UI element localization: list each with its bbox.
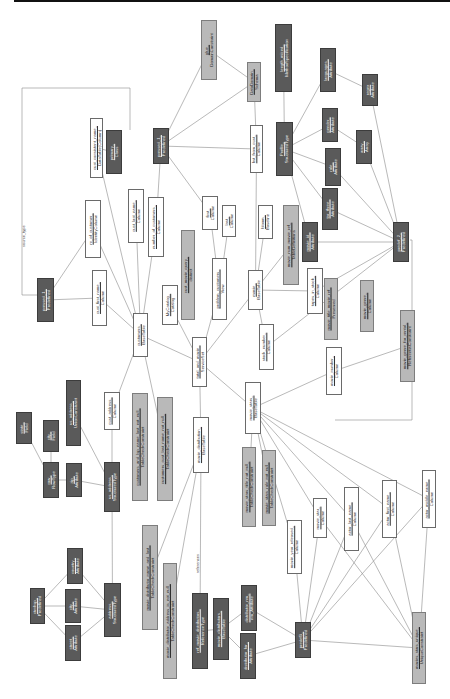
node-type: UnionConstraint xyxy=(74,398,79,428)
node-type: Field xyxy=(24,423,29,432)
diagram-node-primaryclass: primary_Class xyxy=(106,130,122,174)
diagram-node-mycatalog: MyCatalog_Catalog xyxy=(162,285,178,325)
node-type: Predefined xyxy=(46,290,51,310)
node-label: city_Attribute xyxy=(68,598,78,614)
node-type: BaseTable xyxy=(253,398,258,418)
node-label: languages_Attribute xyxy=(323,59,333,81)
diagram-node-street: street_Attribute xyxy=(65,625,81,661)
node-type: Predefined xyxy=(303,630,308,650)
edge xyxy=(161,82,254,146)
diagram-node-moviedatadomain: movie_genre_Column xyxy=(360,280,374,332)
diagram-node-moviedistrefs: movie_distributors_BaseTable xyxy=(213,598,229,660)
node-type: Attribute xyxy=(73,598,78,614)
diagram-node-statelevel: state_Field xyxy=(16,412,32,444)
node-name: movie_stars_title_not_null_ xyxy=(244,462,249,513)
node-type: Catalog xyxy=(170,298,175,312)
diagram-node-moviestarsunique: movies_stars_unique_UniqueConstraint xyxy=(412,612,426,684)
node-type: distinct xyxy=(188,268,193,281)
node-label: role_Attribute xyxy=(328,159,338,175)
diagram-node-moviedesc: movie_genre_for_rental_ReferentialConstr… xyxy=(400,310,415,382)
node-label: movie_num_movie_ref_TableDefinitions xyxy=(286,223,296,268)
diagram-node-last: last_Column xyxy=(222,205,236,237)
diagram-node-actorfirst: actor_first_name_Column xyxy=(382,480,397,538)
edge xyxy=(253,408,429,499)
node-label: number_of_customers_Column xyxy=(151,205,161,249)
node-type: Attribute xyxy=(310,234,315,250)
diagram-node-custlast: cust_last_name_Column xyxy=(128,189,144,243)
node-label: predef3_Predefined xyxy=(298,630,308,650)
node-label: state_Field xyxy=(19,422,29,433)
node-label: actor_middle_name_Column xyxy=(424,479,434,518)
diagram-node-datadom: DataDomain_Schema xyxy=(247,62,261,102)
node-label: cust_movie_query_distinct xyxy=(183,257,193,293)
node-type: Column xyxy=(267,340,272,354)
node-label: country_Attribute xyxy=(70,558,80,574)
node-name: actor_first_name_ xyxy=(385,492,390,526)
node-label: customers_cust_last_name_not_null_TableC… xyxy=(160,414,170,484)
node-name: movie_ xyxy=(251,283,256,297)
diagram-node-moviestar: movie_star_Column xyxy=(313,498,327,538)
node-label: first_Column xyxy=(205,206,215,220)
diagram-node-pressed1: pressed_1_Predefined xyxy=(153,128,169,164)
node-label: glue_DomainConstraint xyxy=(204,33,214,67)
node-type: TableCheckConstraint xyxy=(170,601,175,642)
edge xyxy=(141,335,200,362)
diagram-node-custconsent: cust_consistent_name_DataTable(Column) xyxy=(90,118,103,178)
node-name: length_mized_ xyxy=(279,44,284,71)
node-label: us_address_StructuredType xyxy=(107,473,117,501)
node-label: primary_Class xyxy=(109,144,119,160)
node-type: Class xyxy=(114,147,119,157)
edge-label: references xyxy=(195,554,200,573)
edge xyxy=(370,90,401,242)
diagram-node-predef3: predef3_Predefined xyxy=(295,622,311,658)
node-type: TableCheckConstraint xyxy=(249,467,254,508)
diagram-node-usaddrstruct: us_address_StructuredType xyxy=(104,462,120,512)
node-label: actor_first_name_Column xyxy=(385,492,395,526)
node-label: DataDomain_Schema xyxy=(249,69,259,95)
diagram-node-profile: Profile_StructuredType xyxy=(276,122,293,176)
node-type: StructuredType xyxy=(113,596,118,624)
node-type: ReferenceType xyxy=(200,617,205,645)
diagram-node-movieid: movie_id_Attribute xyxy=(302,222,318,262)
node-type: Attribute xyxy=(328,62,333,78)
diagram-node-bloom: bloom_Baseline xyxy=(258,205,273,239)
node-type: Column xyxy=(156,220,161,234)
edge xyxy=(352,519,420,648)
node-type: RowType xyxy=(51,471,56,488)
node-label: gender_Attribute xyxy=(325,117,335,133)
node-type: BaseTable xyxy=(221,619,226,639)
node-type: Column xyxy=(136,209,141,223)
node-type: Array xyxy=(364,142,369,152)
diagram-node-customersfk: customers_and_lsp_name_last_not_null_Tab… xyxy=(132,393,148,501)
edge xyxy=(303,640,419,648)
diagram-node-tarthree: tar_three_Attribute xyxy=(322,188,338,230)
node-label: pressed_1_Predefined xyxy=(41,289,51,311)
node-label: movie_year_released_Column xyxy=(290,526,300,568)
node-label: movie_stars_title_not_null_TableCheckCon… xyxy=(244,462,254,513)
diagram-node-moviestarsrole: movie_stars_role_not_null_TableCheckCons… xyxy=(262,450,276,526)
node-type: DataTable(Column) xyxy=(97,130,102,166)
node-label: movie_distributor_name_and_last_TableChe… xyxy=(145,545,155,610)
diagram-node-zip: zip_Attribute xyxy=(66,463,82,497)
node-type: ServiceSet xyxy=(200,352,205,372)
node-label: movie_distributor_address_is_not_null_Ta… xyxy=(165,584,175,658)
diagram-node-actormiddle: actor_middle_name_Column xyxy=(422,470,436,528)
diagram-node-moviestarstitle: movie_stars_title_not_null_TableCheckCon… xyxy=(242,447,256,527)
node-type: TableCheckConstraint xyxy=(269,468,274,509)
node-label: movie_distributors_BaseTable xyxy=(216,611,226,647)
diagram-node-mymovies: movie_BaseTable xyxy=(248,270,263,310)
node-type: TableCheckConstraint xyxy=(165,429,170,470)
diagram-node-pressed1b: pressed_1_Predefined xyxy=(37,278,54,322)
node-label: street_Attribute xyxy=(68,635,78,651)
node-label: tar_three_Attribute xyxy=(325,199,335,218)
node-name: movie_star_ xyxy=(315,507,320,530)
node-name: pressed_1_ xyxy=(41,289,46,311)
node-label: bloom_Baseline xyxy=(261,214,271,230)
diagram-node-role: role_Attribute xyxy=(325,148,341,186)
node-name: customers_ xyxy=(136,324,141,346)
diagram-node-bstcol: bst_from_cust_Column xyxy=(250,125,263,173)
node-label: nr_of_customer_IdentityColumn xyxy=(88,213,98,244)
node-type: BaseTable xyxy=(141,325,146,345)
node-type: Column xyxy=(429,492,434,506)
diagram-node-modistdist: movie_distributor_name_and_last_TableChe… xyxy=(142,525,158,630)
